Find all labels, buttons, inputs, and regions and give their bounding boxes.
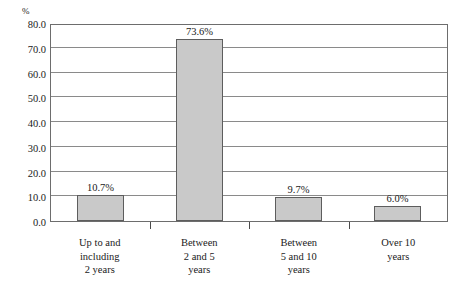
bar[interactable] [374, 206, 421, 221]
x-axis-category-label: Between5 and 10years [249, 236, 349, 292]
category-label-line: years [249, 263, 349, 277]
bar-slot: 9.7% [249, 25, 348, 221]
category-label-line: including [50, 250, 150, 264]
x-axis-category-labels: Up to andincluding2 yearsBetween2 and 5y… [50, 236, 448, 292]
y-axis-tick-label: 10.0 [2, 192, 46, 203]
y-axis-tick-label: 60.0 [2, 68, 46, 79]
bar[interactable] [275, 197, 322, 221]
y-axis-tick-label: 0.0 [2, 217, 46, 228]
bar-value-label: 10.7% [51, 182, 150, 193]
category-label-line: Up to and [50, 236, 150, 250]
category-label-line: Between [150, 236, 250, 250]
bar-chart-figure: % 80.070.060.050.040.030.020.010.00.0 10… [0, 0, 463, 294]
x-axis-category-label: Between2 and 5years [150, 236, 250, 292]
bar[interactable] [77, 195, 124, 221]
y-axis-tick-label: 20.0 [2, 167, 46, 178]
plot-area: 10.7%73.6%9.7%6.0% [50, 24, 448, 222]
y-axis-unit-label: % [22, 6, 30, 16]
category-label-line: years [150, 263, 250, 277]
y-axis-tick-label: 50.0 [2, 93, 46, 104]
bar-value-label: 9.7% [249, 184, 348, 195]
x-axis-category-label: Over 10years [349, 236, 449, 292]
bar-slot: 73.6% [150, 25, 249, 221]
category-label-line: 5 and 10 [249, 250, 349, 264]
category-label-line: 2 and 5 [150, 250, 250, 264]
x-axis-category-label: Up to andincluding2 years [50, 236, 150, 292]
y-axis-tick-label: 40.0 [2, 118, 46, 129]
y-axis-tick-label: 80.0 [2, 19, 46, 30]
bar[interactable] [176, 39, 223, 221]
bar-slot: 10.7% [51, 25, 150, 221]
x-axis-tick [249, 222, 250, 229]
category-label-line: years [349, 250, 449, 264]
bar-value-label: 73.6% [150, 26, 249, 37]
category-label-line: Over 10 [349, 236, 449, 250]
bar-value-label: 6.0% [348, 193, 447, 204]
y-axis-tick-labels: 80.070.060.050.040.030.020.010.00.0 [0, 24, 46, 222]
bar-slot: 6.0% [348, 25, 447, 221]
y-axis-tick-label: 70.0 [2, 43, 46, 54]
x-axis-tick [150, 222, 151, 229]
x-axis-tick [349, 222, 350, 229]
y-axis-tick-label: 30.0 [2, 142, 46, 153]
category-label-line: 2 years [50, 263, 150, 277]
x-axis-tick-marks [50, 222, 448, 229]
category-label-line: Between [249, 236, 349, 250]
